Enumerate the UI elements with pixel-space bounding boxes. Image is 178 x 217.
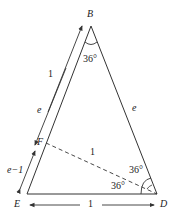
d-upper-angle-label: 36° <box>129 164 143 175</box>
e-upper-label: e <box>37 104 41 115</box>
fd-length-label: 1 <box>90 146 95 157</box>
golden-triangle-diagram: B 36° 1 e e F 1 e−1 36° 36° E 1 D <box>0 0 178 217</box>
bf-length-label: 1 <box>48 68 53 79</box>
triangle-figure <box>0 0 178 217</box>
vertex-f-label: F <box>37 136 43 147</box>
vertex-d-label: D <box>160 198 167 209</box>
e-minus-1-label: e−1 <box>7 164 23 175</box>
vertex-e-label: E <box>14 198 20 209</box>
apex-angle-arc <box>85 42 97 45</box>
bd-length-label: e <box>132 102 136 113</box>
vertex-b-label: B <box>87 8 93 19</box>
d-inner-angle-arc <box>147 185 152 189</box>
ed-length-label: 1 <box>88 198 93 209</box>
apex-angle-label: 36° <box>83 53 97 64</box>
d-lower-angle-label: 36° <box>111 180 125 191</box>
